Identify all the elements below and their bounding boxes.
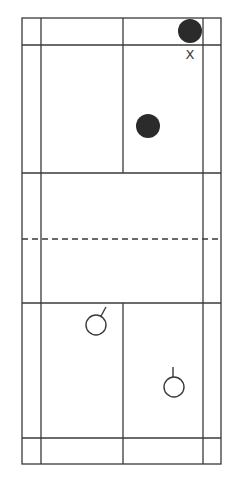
badminton-court-diagram: X — [0, 0, 232, 482]
player-top-mid — [136, 114, 160, 138]
player-top-back — [178, 19, 202, 43]
player-open-icon — [164, 377, 184, 397]
court-boundary — [22, 18, 221, 464]
court-lines — [22, 18, 221, 464]
markers: X — [186, 47, 195, 62]
x-marker: X — [186, 47, 195, 62]
player-bottom-right — [164, 367, 184, 397]
player-filled-icon — [178, 19, 202, 43]
players — [86, 19, 202, 397]
player-filled-icon — [136, 114, 160, 138]
player-open-icon — [86, 315, 106, 335]
player-bottom-left — [86, 307, 106, 335]
racket-stem-icon — [101, 307, 106, 316]
